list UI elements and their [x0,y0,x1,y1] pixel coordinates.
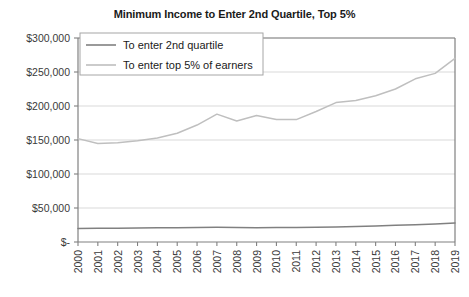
x-axis-tick-label: 2010 [270,250,282,274]
x-axis-tick-label: 2011 [290,250,302,273]
series-line-1 [78,223,455,228]
x-axis-tick-label: 2004 [151,250,163,274]
y-axis-tick-label: $250,000 [26,66,70,78]
x-axis-tick-label: 2017 [409,250,421,274]
x-axis-tick-label: 2002 [112,250,124,274]
y-axis-tick-label: $150,000 [26,134,70,146]
x-axis-tick-label: 2007 [211,250,223,274]
x-axis-tick-label: 2000 [72,250,84,274]
x-axis-tick-label: 2019 [449,250,461,274]
x-axis-tick-label: 2018 [429,250,441,274]
y-axis-tick-label: $200,000 [26,100,70,112]
y-axis-tick-label: $300,000 [26,32,70,44]
line-chart-plot: $300,000$250,000$200,000$150,000$100,000… [0,0,469,297]
x-axis-tick-label: 2001 [92,250,104,274]
x-axis-tick-label: 2005 [171,250,183,274]
x-axis-tick-label: 2009 [251,250,263,274]
x-axis-tick-label: 2012 [310,250,322,274]
x-axis-tick-label: 2015 [370,250,382,274]
x-axis-tick-label: 2014 [350,250,362,274]
x-axis-tick-label: 2016 [389,250,401,274]
y-axis-tick-label: $50,000 [32,202,70,214]
y-axis-tick-label: $100,000 [26,168,70,180]
legend-label-2: To enter top 5% of earners [123,59,253,71]
x-axis-tick-label: 2003 [132,250,144,274]
y-axis-tick-label: $- [61,236,71,248]
x-axis-tick-label: 2008 [231,250,243,274]
x-axis-tick-label: 2013 [330,250,342,274]
chart-card: Minimum Income to Enter 2nd Quartile, To… [0,0,469,297]
legend-label-1: To enter 2nd quartile [123,39,223,51]
x-axis-tick-label: 2006 [191,250,203,274]
